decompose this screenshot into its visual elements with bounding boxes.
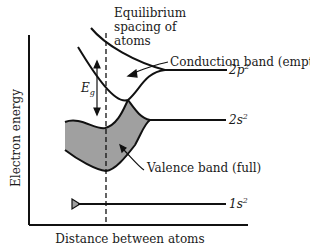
valence-band-label: Valence band (full) [146,161,261,175]
2p-level-label: 2p2 [228,62,249,77]
band-diagram: Equilibrium spacing of atoms Conduction … [0,0,310,249]
x-axis-label: Distance between atoms [55,232,204,246]
band-gap-label: Eg [80,81,95,97]
equilibrium-label: Equilibrium spacing of atoms [114,6,190,48]
y-axis-label: Electron energy [9,89,23,187]
2s-level-label: 2s2 [228,112,248,127]
band-gap-arrow [94,61,100,115]
1s-level-label: 1s2 [229,196,248,211]
